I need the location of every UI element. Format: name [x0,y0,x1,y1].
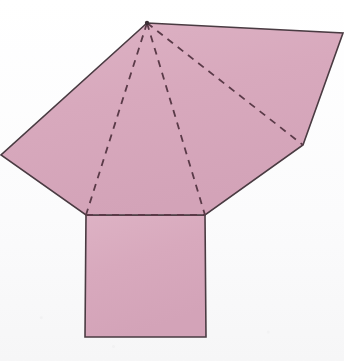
pentagon-panel [1,23,343,215]
rectangle-tab [85,215,206,337]
vertex-apex-marker [145,21,149,25]
net-diagram [0,0,344,361]
figure-canvas: Geometric net diagram Pentagonal panel w… [0,0,344,361]
